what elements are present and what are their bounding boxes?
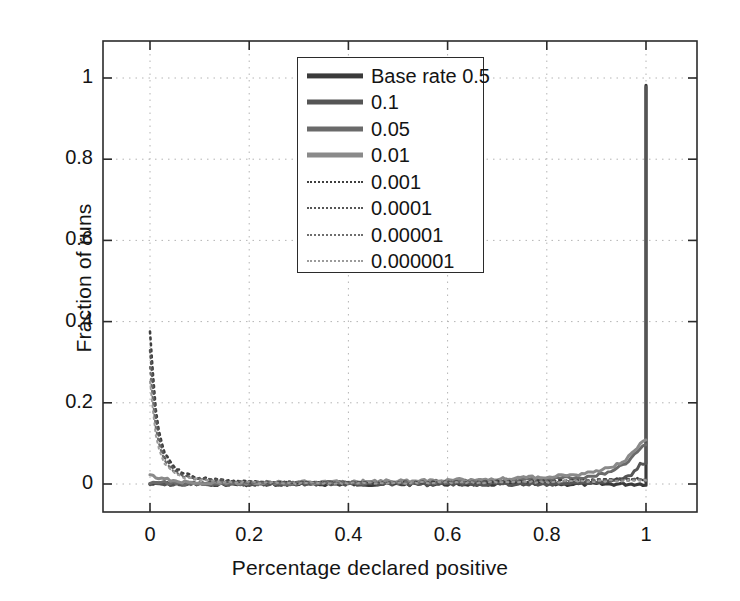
series-line — [150, 382, 646, 485]
figure-container: 00.20.40.60.81 00.20.40.60.81 Percentage… — [0, 0, 740, 601]
legend-line-swatch-icon — [307, 122, 363, 136]
x-tick-label: 0.2 — [219, 523, 279, 546]
series-line — [150, 350, 646, 484]
x-tick-label: 0 — [120, 523, 180, 546]
legend-item-label: Base rate 0.5 — [371, 66, 490, 86]
legend-line-swatch-icon — [307, 254, 363, 268]
legend-item[interactable]: 0.01 — [298, 142, 483, 169]
legend-item[interactable]: 0.05 — [298, 115, 483, 142]
x-tick-label: 1 — [616, 523, 676, 546]
legend-item[interactable]: 0.001 — [298, 168, 483, 195]
chart-legend: Base rate 0.50.10.050.010.0010.00010.000… — [297, 57, 484, 273]
legend-item-label: 0.05 — [371, 119, 410, 139]
legend-item-label: 0.001 — [371, 172, 421, 192]
legend-line-swatch-icon — [307, 69, 363, 83]
legend-item-label: 0.1 — [371, 92, 399, 112]
y-axis-title: Fraction of runs — [72, 128, 96, 428]
x-tick-label: 0.6 — [418, 523, 478, 546]
series-line — [150, 331, 646, 483]
y-tick-label: 0 — [23, 471, 93, 494]
legend-item[interactable]: 0.000001 — [298, 248, 483, 275]
x-axis-title: Percentage declared positive — [0, 556, 740, 580]
legend-line-swatch-icon — [307, 201, 363, 215]
legend-item-label: 0.000001 — [371, 251, 454, 271]
legend-line-swatch-icon — [307, 95, 363, 109]
legend-line-swatch-icon — [307, 148, 363, 162]
legend-item[interactable]: Base rate 0.5 — [298, 62, 483, 89]
series-line — [150, 367, 646, 484]
legend-item[interactable]: 0.0001 — [298, 195, 483, 222]
y-tick-label: 1 — [23, 65, 93, 88]
legend-item-label: 0.00001 — [371, 225, 443, 245]
x-tick-label: 0.4 — [318, 523, 378, 546]
legend-item-label: 0.0001 — [371, 198, 432, 218]
legend-line-swatch-icon — [307, 175, 363, 189]
legend-line-swatch-icon — [307, 228, 363, 242]
legend-item[interactable]: 0.00001 — [298, 221, 483, 248]
x-tick-label: 0.8 — [517, 523, 577, 546]
legend-item-label: 0.01 — [371, 145, 410, 165]
legend-item[interactable]: 0.1 — [298, 89, 483, 116]
